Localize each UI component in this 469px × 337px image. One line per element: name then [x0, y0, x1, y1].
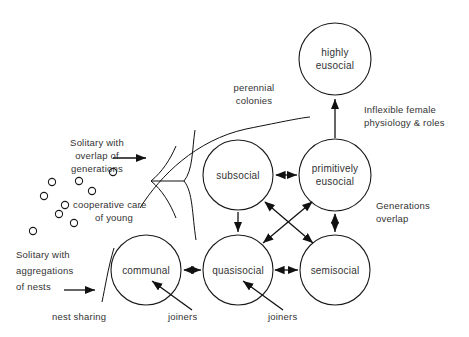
annot-solitary-overlap-line2: overlap of: [75, 150, 119, 161]
cooperative-care-brace-lower: [184, 181, 196, 240]
annot-nest-sharing: nest sharing: [52, 311, 106, 322]
annot-solitary-aggregations-line2: aggregations: [16, 265, 73, 276]
arrow-subsocial-semisocial: [265, 202, 313, 243]
solitary-individual: [40, 192, 47, 199]
node-label-primitively-eusocial-line1: primitively: [312, 163, 359, 174]
solitary-individual: [70, 219, 77, 226]
annot-solitary-overlap-line1: Solitary with: [70, 137, 124, 148]
node-label-highly-eusocial-line2: eusocial: [316, 60, 354, 71]
solitary-individual: [75, 177, 82, 184]
annot-generations-overlap-line1: Generations: [376, 200, 430, 211]
node-label-quasisocial: quasisocial: [212, 265, 264, 276]
annot-perennial-colonies-line2: colonies: [236, 95, 273, 106]
annot-inflexible-line1: Inflexible female: [364, 104, 436, 115]
cooperative-care-brace-upper: [184, 130, 195, 181]
node-label-subsocial: subsocial: [216, 170, 260, 181]
annot-generations-overlap-line2: overlap: [376, 213, 409, 224]
solitary-individual: [88, 187, 95, 194]
annot-solitary-overlap-line3: generations: [71, 163, 123, 174]
diagram-canvas: highly eusocial subsocial primitively eu…: [0, 0, 469, 337]
annot-cooperative-care-line2: of young: [95, 212, 133, 223]
annot-perennial-colonies-line1: perennial: [234, 82, 275, 93]
solitary-individual: [55, 210, 62, 217]
solitary-individual: [61, 201, 68, 208]
evolution-of-sociality-diagram: highly eusocial subsocial primitively eu…: [0, 0, 469, 337]
cooperative-care-brace-tip-up: [151, 146, 176, 181]
node-primitively-eusocial[interactable]: [299, 139, 371, 211]
node-label-semisocial: semisocial: [311, 265, 360, 276]
annot-solitary-aggregations-line1: Solitary with: [16, 249, 70, 260]
cooperative-care-brace-tip-down: [151, 181, 176, 218]
node-highly-eusocial[interactable]: [299, 23, 371, 95]
node-label-highly-eusocial-line1: highly: [321, 47, 348, 58]
node-label-communal: communal: [122, 265, 170, 276]
annot-inflexible-line2: physiology & roles: [364, 117, 445, 128]
node-label-primitively-eusocial-line2: eusocial: [316, 176, 354, 187]
arrow-quasisocial-primitively: [263, 202, 312, 243]
solitary-individual: [48, 178, 55, 185]
solitary-individual: [29, 227, 36, 234]
annot-solitary-aggregations-line3: of nests: [16, 281, 51, 292]
annot-joiners-left: joiners: [167, 311, 197, 322]
annot-cooperative-care-line1: cooperative care: [73, 199, 146, 210]
annot-joiners-right: joiners: [267, 311, 297, 322]
